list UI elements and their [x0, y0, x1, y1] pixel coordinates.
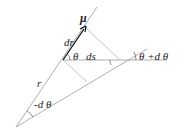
theta-plus-dtheta-label: θ +d θ — [139, 51, 168, 62]
minus-dtheta-label: -d θ — [34, 99, 51, 110]
perpendicular-line — [63, 60, 87, 82]
dr-label: dr — [64, 37, 74, 48]
r-label: r — [37, 78, 41, 89]
radial-line — [16, 7, 97, 127]
ds-label: ds — [86, 51, 96, 62]
diagram-canvas: μ dr θ ds θ +d θ r -d θ — [0, 0, 178, 133]
mu-label: μ — [80, 12, 87, 24]
diagram-svg — [0, 0, 178, 133]
theta-arc — [67, 54, 70, 60]
intersection-arc — [110, 60, 111, 65]
origin-arc — [27, 111, 33, 117]
lower-ray-line — [16, 49, 147, 127]
theta-label: θ — [73, 51, 78, 62]
